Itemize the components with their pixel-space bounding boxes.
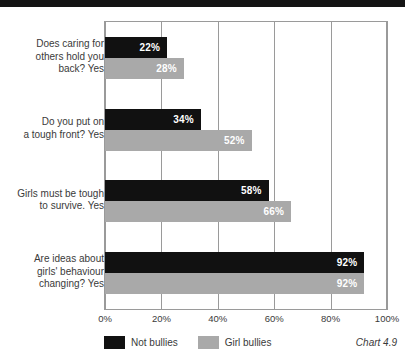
bar-not-bullies[interactable]: 92% [105, 252, 364, 273]
bar-row: 58% [105, 180, 387, 201]
page-top-rule [0, 0, 405, 7]
category-label: Girls must be tough to survive. Yes [12, 188, 104, 213]
bar-girl-bullies[interactable]: 92% [105, 273, 364, 294]
bar-girl-bullies[interactable]: 66% [105, 201, 291, 222]
bar-value-label: 66% [263, 206, 291, 217]
x-axis-tick-labels: 0%20%40%60%80%100% [104, 313, 388, 327]
bar-not-bullies[interactable]: 22% [105, 37, 167, 58]
bar-value-label: 28% [156, 63, 184, 74]
bar-girl-bullies[interactable]: 28% [105, 58, 184, 79]
legend-item[interactable]: Not bullies [104, 336, 178, 349]
bar-girl-bullies[interactable]: 52% [105, 130, 252, 151]
bar-group: 34%52% [105, 109, 387, 151]
bar-row: 92% [105, 252, 387, 273]
legend-item[interactable]: Girl bullies [198, 336, 272, 349]
chart-legend: Not bulliesGirl bullies [104, 335, 291, 349]
bar-group: 58%66% [105, 180, 387, 222]
bar-row: 28% [105, 58, 387, 79]
bar-value-label: 34% [173, 114, 201, 125]
plot-area: 22%28%34%52%58%66%92%92% [104, 21, 388, 310]
legend-label: Not bullies [131, 337, 178, 348]
category-label: Does caring for others hold you back? Ye… [12, 38, 104, 76]
chart-caption: Chart 4.9 [356, 337, 397, 348]
legend-swatch-icon [104, 336, 125, 349]
legend-swatch-icon [198, 336, 219, 349]
bar-not-bullies[interactable]: 58% [105, 180, 269, 201]
bar-row: 34% [105, 109, 387, 130]
x-tick-label: 60% [265, 313, 284, 324]
x-tick-label: 40% [208, 313, 227, 324]
bar-value-label: 58% [241, 185, 269, 196]
legend-label: Girl bullies [225, 337, 272, 348]
bar-value-label: 92% [337, 257, 365, 268]
bar-group: 92%92% [105, 252, 387, 294]
plot-inner: 22%28%34%52%58%66%92%92% [105, 22, 387, 309]
x-tick-label: 80% [321, 313, 340, 324]
x-tick-label: 20% [152, 313, 171, 324]
bar-row: 92% [105, 273, 387, 294]
bar-value-label: 22% [139, 42, 167, 53]
bar-row: 52% [105, 130, 387, 151]
bar-row: 66% [105, 201, 387, 222]
bar-value-label: 92% [337, 278, 365, 289]
x-tick-label: 0% [98, 313, 112, 324]
category-label: Are ideas about girls' behaviour changin… [12, 253, 104, 291]
bar-row: 22% [105, 37, 387, 58]
x-tick-label: 100% [375, 313, 399, 324]
bar-not-bullies[interactable]: 34% [105, 109, 201, 130]
category-label: Do you put on a tough front? Yes [12, 116, 104, 141]
bar-value-label: 52% [224, 135, 252, 146]
bar-group: 22%28% [105, 37, 387, 79]
chart-figure: 22%28%34%52%58%66%92%92% Does caring for… [0, 7, 405, 361]
